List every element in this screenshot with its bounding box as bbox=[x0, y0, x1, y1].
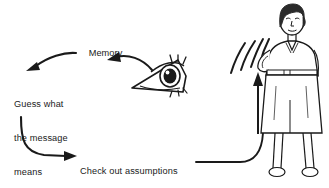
label-check-line-1: Check out assumptions bbox=[80, 166, 178, 177]
label-memory-text: Memory bbox=[89, 48, 123, 58]
label-check-out-assumptions: Check out assumptions with the person (a… bbox=[80, 144, 178, 188]
label-guess-line-2: the message bbox=[14, 133, 68, 144]
label-guess-line-3: means bbox=[14, 167, 68, 178]
diagram-canvas: Memory Guess what the message means Chec… bbox=[0, 0, 329, 188]
label-memory: Memory bbox=[78, 37, 122, 71]
label-guess-line-1: Guess what bbox=[14, 99, 68, 110]
arrow-memory-to-guess bbox=[26, 53, 76, 71]
arrow-check-to-person bbox=[196, 133, 263, 162]
person-icon bbox=[258, 4, 322, 177]
label-guess-what-message-means: Guess what the message means bbox=[14, 77, 68, 188]
